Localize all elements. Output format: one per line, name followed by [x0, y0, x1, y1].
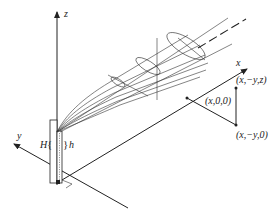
right-angle-marker — [62, 180, 72, 188]
y-axis — [14, 144, 128, 208]
physical-height-brace: } — [63, 138, 68, 150]
label-x-yz: (x,−y,z) — [236, 74, 267, 86]
z-axis-label: z — [63, 8, 68, 19]
x-axis — [57, 69, 247, 183]
plume-diagram: z y x H { } h — [0, 0, 274, 212]
point-x-yz — [235, 87, 238, 90]
label-x-y0: (x,−y,0) — [236, 129, 268, 141]
label-x00: (x,0,0) — [205, 95, 232, 107]
y-axis-label: y — [16, 130, 22, 141]
x-axis-label: x — [235, 57, 241, 68]
plume — [57, 18, 232, 132]
physical-height-label: h — [69, 139, 74, 150]
effective-height-brace: { — [47, 138, 52, 150]
